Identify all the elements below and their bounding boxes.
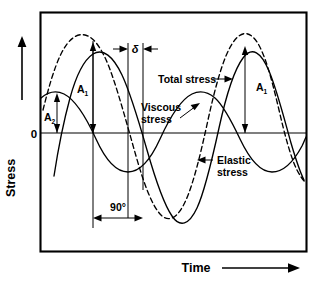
quarter-period-dimension <box>93 215 143 222</box>
x-axis-label: Time <box>182 261 211 275</box>
leader-viscous-stress <box>180 103 200 118</box>
label-viscous-stress-line2: stress <box>141 113 172 125</box>
y-axis-origin-label: 0 <box>31 128 37 140</box>
label-total-stress: Total stress <box>158 73 216 85</box>
viscoelastic-stress-figure: Stress 0 Time A 2 A 1 A 1 δ 90° Total st… <box>0 0 324 285</box>
label-amplitude-a1-right-sub: 1 <box>264 88 268 95</box>
label-amplitude-a1-left: A 1 <box>77 83 89 97</box>
stress-vs-time-chart: Stress 0 Time A 2 A 1 A 1 δ 90° Total st… <box>0 0 324 285</box>
label-phase-lag-delta: δ <box>132 43 139 55</box>
x-axis-arrow-icon <box>222 263 300 273</box>
amplitude-arrow-a2 <box>54 93 60 133</box>
y-axis-arrow-icon <box>18 36 27 100</box>
label-amplitude-a1-left-sub: 1 <box>85 90 89 97</box>
label-elastic-stress-line1: Elastic <box>217 154 251 166</box>
plot-frame <box>41 13 307 252</box>
y-axis-label: Stress <box>4 159 18 197</box>
label-amplitude-a2: A 2 <box>44 111 56 125</box>
label-viscous-stress-line1: Viscous <box>141 101 181 113</box>
label-amplitude-a1-right: A 1 <box>256 81 268 95</box>
curve-total-stress <box>43 34 306 219</box>
label-quarter-period: 90° <box>110 201 126 213</box>
label-amplitude-a2-sub: 2 <box>52 118 56 125</box>
label-elastic-stress-line2: stress <box>217 166 248 178</box>
